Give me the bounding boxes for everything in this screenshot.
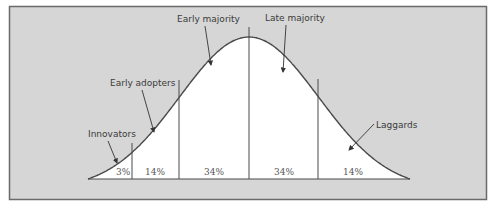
label-early-majority: Early majority: [177, 14, 241, 24]
adoption-curve-diagram: 3% 14% 34% 34% 14% Innovators Early adop…: [0, 0, 496, 212]
label-innovators: Innovators: [88, 129, 136, 139]
percent-early-majority: 34%: [204, 167, 224, 177]
percent-late-majority: 34%: [274, 167, 294, 177]
label-laggards: Laggards: [376, 120, 418, 130]
label-late-majority: Late majority: [265, 13, 325, 23]
percent-innovators: 3%: [116, 167, 131, 177]
percent-early-adopters: 14%: [145, 167, 165, 177]
percent-laggards: 14%: [343, 167, 363, 177]
label-early-adopters: Early adopters: [110, 78, 176, 88]
